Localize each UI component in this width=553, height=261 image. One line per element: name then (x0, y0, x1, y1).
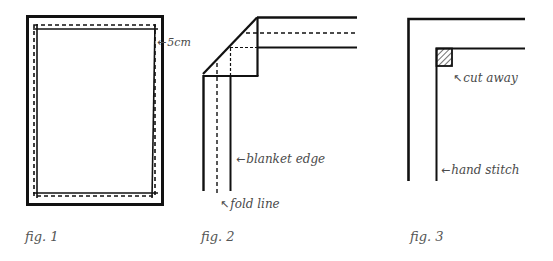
fig3-drawing (409, 19, 526, 181)
diagram-svg (0, 0, 553, 261)
annotation-text: cut away (463, 71, 517, 85)
fig2-annotation-fold-line: ↖fold line (220, 198, 280, 210)
cut-away-square (437, 49, 453, 67)
arrow-up-left-icon: ↖ (453, 72, 462, 85)
diagram-canvas: ←5cm fig. 1 ←blanket edge ↖fold line fig… (0, 0, 553, 261)
annotation-text: blanket edge (246, 152, 325, 166)
fig3-caption: fig. 3 (410, 230, 444, 243)
fig3-annotation-cut-away: ↖cut away (453, 72, 518, 84)
fig2-caption: fig. 2 (201, 230, 235, 243)
fig2-annotation-blanket-edge: ←blanket edge (236, 153, 325, 165)
annotation-text: 5cm (167, 36, 191, 49)
annotation-text: fold line (230, 197, 280, 211)
fig1-annotation-5cm: ←5cm (157, 37, 191, 48)
annotation-text: hand stitch (451, 163, 519, 177)
fig1-drawing (28, 17, 163, 205)
fig1-fold-line (34, 25, 155, 196)
arrow-left-icon: ← (157, 36, 166, 49)
arrow-up-left-icon: ↖ (220, 198, 229, 211)
fig1-outer-edge (28, 17, 163, 205)
fig2-drawing (203, 17, 357, 193)
fig1-caption: fig. 1 (25, 230, 59, 243)
fig3-annotation-hand-stitch: ←hand stitch (441, 164, 519, 176)
arrow-left-icon: ← (441, 164, 450, 177)
arrow-left-icon: ← (236, 153, 245, 166)
